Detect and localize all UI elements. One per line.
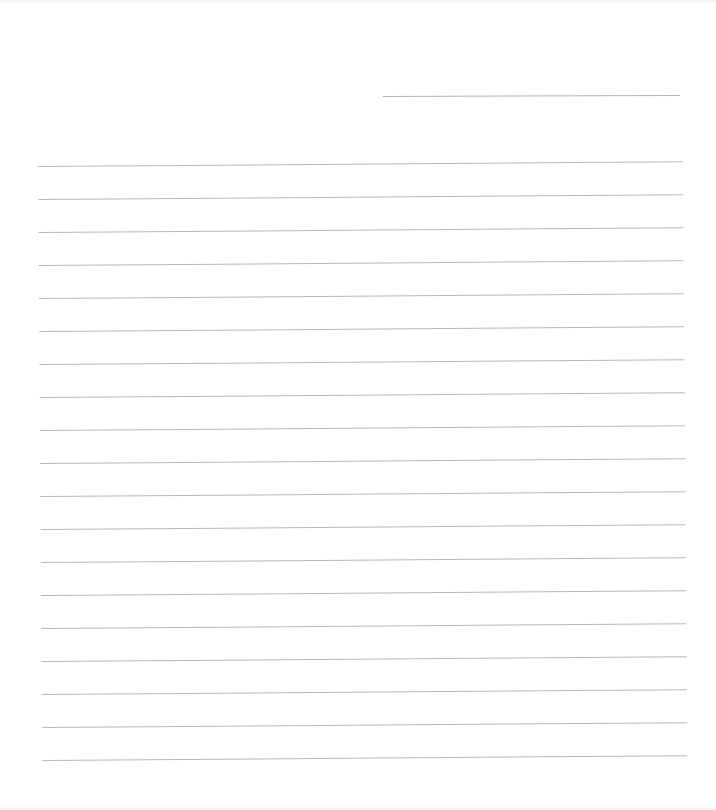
ruled-line — [39, 260, 684, 298]
ruled-line — [39, 359, 684, 397]
lined-paper-page — [0, 0, 716, 810]
top-edge-bleed — [0, 0, 716, 4]
ruled-line — [40, 425, 685, 463]
ruled-line — [42, 656, 687, 694]
ruled-line — [41, 557, 686, 595]
ruled-line — [42, 689, 687, 727]
ruled-line — [42, 722, 687, 760]
ruled-lines — [38, 161, 688, 793]
ruled-line — [41, 590, 686, 628]
ruled-line — [38, 227, 683, 265]
ruled-line — [40, 392, 685, 430]
ruled-line — [40, 458, 685, 496]
header-blank-line — [383, 95, 680, 97]
bottom-edge-bleed — [0, 804, 716, 810]
ruled-line — [41, 623, 686, 661]
ruled-line — [42, 755, 687, 793]
ruled-line — [40, 491, 685, 529]
ruled-line — [38, 161, 683, 199]
ruled-line — [39, 293, 684, 331]
ruled-line — [38, 194, 683, 232]
ruled-line — [39, 326, 684, 364]
ruled-line — [41, 524, 686, 562]
